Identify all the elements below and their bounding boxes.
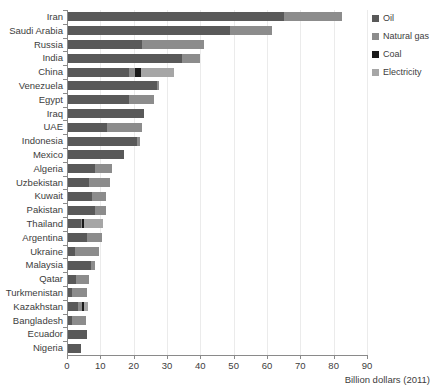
bar-row xyxy=(67,272,89,286)
x-axis-title: Billion dollars (2011) xyxy=(0,374,430,385)
legend-item[interactable]: Oil xyxy=(372,9,438,27)
bar-row xyxy=(67,314,86,328)
bar-segment-oil xyxy=(67,150,124,159)
bar-segment-natural-gas xyxy=(87,233,102,242)
bar-segment-natural-gas xyxy=(95,206,106,215)
y-axis-label: Iran xyxy=(0,12,63,22)
y-axis-label: Venezuela xyxy=(0,81,63,91)
y-axis-label: Kuwait xyxy=(0,191,63,201)
bar-segment-oil xyxy=(67,344,81,353)
bar-row xyxy=(67,51,200,65)
legend-swatch-icon xyxy=(372,15,379,22)
bar-segment-oil xyxy=(67,275,76,284)
bar-segment-natural-gas xyxy=(95,164,112,173)
y-axis-label: Argentina xyxy=(0,233,63,243)
bar-row xyxy=(67,38,204,52)
y-axis-label: Nigeria xyxy=(0,343,63,353)
y-axis-label: Uzbekistan xyxy=(0,178,63,188)
bar-segment-oil xyxy=(67,40,142,49)
bar-row xyxy=(67,300,88,314)
bar-segment-oil xyxy=(67,164,95,173)
x-axis-tick xyxy=(100,355,101,359)
x-axis-tick xyxy=(200,355,201,359)
y-axis-label: Algeria xyxy=(0,164,63,174)
bar-segment-oil xyxy=(67,330,87,339)
bar-row xyxy=(67,79,159,93)
x-axis-tick xyxy=(300,355,301,359)
bar-segment-oil xyxy=(67,95,129,104)
bar-segment-oil xyxy=(67,233,87,242)
legend-label: Coal xyxy=(383,49,402,59)
legend-swatch-icon xyxy=(372,69,379,76)
bar-segment-oil xyxy=(67,137,137,146)
x-axis-tick xyxy=(367,355,368,359)
bar-segment-oil xyxy=(67,192,92,201)
x-axis-tick xyxy=(134,355,135,359)
y-axis-label: Ukraine xyxy=(0,247,63,257)
x-axis-tick-label: 0 xyxy=(52,360,82,371)
bar-row xyxy=(67,203,106,217)
legend-swatch-icon xyxy=(372,33,379,40)
y-axis-label: Egypt xyxy=(0,95,63,105)
bar-segment-oil xyxy=(67,178,89,187)
bar-row xyxy=(67,189,106,203)
bar-segment-natural-gas xyxy=(230,26,272,35)
bar-segment-natural-gas xyxy=(91,261,95,270)
y-axis-label: Qatar xyxy=(0,274,63,284)
x-axis-tick-label: 60 xyxy=(252,360,282,371)
bar-segment-natural-gas xyxy=(157,81,159,90)
gridline xyxy=(367,10,368,355)
y-axis-label: Iraq xyxy=(0,109,63,119)
x-axis-ticks: 0102030405060708090 xyxy=(67,355,368,375)
legend-item[interactable]: Coal xyxy=(372,45,438,63)
y-axis-label: Russia xyxy=(0,40,63,50)
y-axis-labels: IranSaudi ArabiaRussiaIndiaChinaVenezuel… xyxy=(0,10,63,355)
bar-segment-electricity xyxy=(84,302,87,311)
y-axis-label: Malaysia xyxy=(0,260,63,270)
bar-segment-natural-gas xyxy=(75,247,99,256)
bar-row xyxy=(67,341,81,355)
bar-row xyxy=(67,148,124,162)
x-axis-tick-label: 50 xyxy=(219,360,249,371)
bar-segment-oil xyxy=(67,261,91,270)
legend: OilNatural gasCoalElectricity xyxy=(372,9,438,81)
bar-rows xyxy=(67,10,367,355)
bar-row xyxy=(67,24,272,38)
y-axis-label: Thailand xyxy=(0,219,63,229)
y-axis-label: Bangladesh xyxy=(0,316,63,326)
y-axis-label: Indonesia xyxy=(0,136,63,146)
x-axis-tick-label: 40 xyxy=(185,360,215,371)
bar-row xyxy=(67,134,140,148)
bar-segment-natural-gas xyxy=(76,275,89,284)
bar-segment-oil xyxy=(67,109,144,118)
bar-chart: IranSaudi ArabiaRussiaIndiaChinaVenezuel… xyxy=(0,0,438,392)
legend-item[interactable]: Electricity xyxy=(372,63,438,81)
x-axis-tick xyxy=(334,355,335,359)
bar-row xyxy=(67,258,95,272)
legend-item[interactable]: Natural gas xyxy=(372,27,438,45)
bar-segment-natural-gas xyxy=(92,192,106,201)
legend-swatch-icon xyxy=(372,51,379,58)
bar-segment-natural-gas xyxy=(89,178,111,187)
bar-row xyxy=(67,286,87,300)
bar-segment-natural-gas xyxy=(182,54,200,63)
legend-label: Electricity xyxy=(383,67,422,77)
x-axis-tick xyxy=(67,355,68,359)
x-axis-tick xyxy=(167,355,168,359)
bar-segment-natural-gas xyxy=(137,137,140,146)
y-axis-label: Mexico xyxy=(0,150,63,160)
bar-segment-natural-gas xyxy=(142,40,204,49)
x-axis-tick-label: 80 xyxy=(319,360,349,371)
legend-label: Oil xyxy=(383,13,394,23)
bar-row xyxy=(67,93,154,107)
bar-row xyxy=(67,245,99,259)
y-axis-label: UAE xyxy=(0,122,63,132)
bar-row xyxy=(67,327,87,341)
bar-segment-natural-gas xyxy=(72,316,86,325)
y-axis-label: India xyxy=(0,53,63,63)
legend-label: Natural gas xyxy=(383,31,429,41)
bar-segment-oil xyxy=(67,219,81,228)
y-axis-label: Kazakhstan xyxy=(0,302,63,312)
bar-segment-oil xyxy=(67,68,129,77)
x-axis-tick-label: 90 xyxy=(352,360,382,371)
